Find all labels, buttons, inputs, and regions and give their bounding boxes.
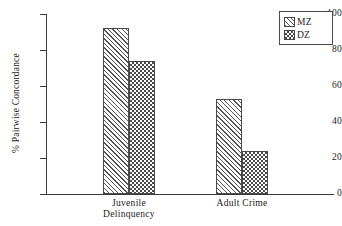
bar-mz-1	[103, 28, 129, 194]
x-axis-category-label-line: Adult Crime	[182, 198, 302, 209]
legend-label-mz: MZ	[297, 17, 312, 27]
chart-legend: MZ DZ	[279, 11, 333, 45]
x-axis-category-label: Adult Crime	[182, 198, 302, 209]
legend-item-mz: MZ	[284, 15, 328, 28]
legend-item-dz: DZ	[284, 28, 328, 41]
x-axis-category-label-line: Delinquency	[69, 209, 189, 220]
bar-mz-2	[216, 99, 242, 194]
bar-dz-1	[129, 61, 155, 194]
checkerboard-swatch-icon	[284, 30, 295, 40]
x-axis-category-label: JuvenileDelinquency	[69, 198, 189, 220]
bar-chart: % Pairwise Concordance 020406080100 Juve…	[0, 0, 342, 226]
diagonal-hatch-swatch-icon	[284, 17, 295, 27]
y-axis-title: % Pairwise Concordance	[11, 23, 21, 183]
x-axis-line	[46, 194, 334, 195]
bar-dz-2	[242, 151, 268, 194]
legend-label-dz: DZ	[297, 30, 310, 40]
x-axis-category-label-line: Juvenile	[69, 198, 189, 209]
